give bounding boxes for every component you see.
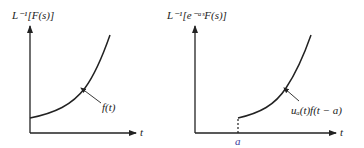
left-y-axis-label: L⁻¹[F(s)] xyxy=(12,10,54,21)
left-x-axis-label: t xyxy=(140,127,143,138)
right-plot xyxy=(195,26,336,133)
right-curve-label: uₐ(t)f(t − a) xyxy=(291,105,342,116)
right-y-axis-label: L⁻¹[e⁻ᵃˢF(s)] xyxy=(167,10,227,21)
left-curve-pointer xyxy=(81,88,101,103)
left-curve-f xyxy=(30,35,110,118)
right-curve-pointer xyxy=(284,88,299,101)
right-x-axis-label: t xyxy=(340,127,343,138)
shift-tick-label: a xyxy=(235,136,241,147)
left-plot xyxy=(30,26,136,133)
left-curve-label: f(t) xyxy=(102,102,115,113)
diagram-canvas xyxy=(0,0,364,148)
